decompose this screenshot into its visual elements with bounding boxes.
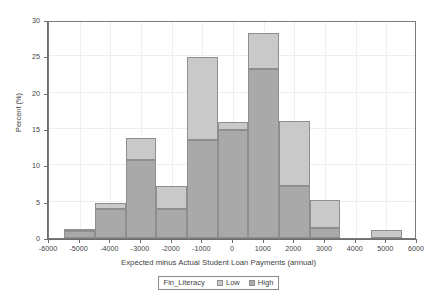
y-axis-tick-label: 5: [0, 198, 40, 207]
x-axis-tick: [355, 239, 356, 243]
y-axis-tick: [44, 239, 48, 240]
histogram-bar[interactable]: [64, 229, 95, 238]
bar-segment-high[interactable]: [126, 160, 157, 238]
bar-segment-low[interactable]: [279, 121, 310, 186]
x-axis-tick-label: 6000: [386, 244, 437, 253]
y-axis-tick: [44, 130, 48, 131]
histogram-bar[interactable]: [218, 122, 249, 238]
legend-swatch-high-icon: [249, 280, 255, 286]
x-axis-tick: [385, 239, 386, 243]
bar-segment-low[interactable]: [95, 203, 126, 209]
x-axis-tick: [109, 239, 110, 243]
bar-segment-low[interactable]: [310, 200, 341, 228]
y-axis-tick: [44, 94, 48, 95]
bar-segment-high[interactable]: [187, 140, 218, 238]
bar-segment-low[interactable]: [156, 186, 187, 209]
histogram-bar[interactable]: [310, 200, 341, 238]
histogram-bar[interactable]: [371, 230, 402, 238]
x-axis-tick: [263, 239, 264, 243]
histogram-bar[interactable]: [95, 203, 126, 238]
legend-swatch-low-icon: [217, 280, 223, 286]
y-axis-tick-label: 25: [0, 52, 40, 61]
bar-segment-low[interactable]: [218, 122, 249, 131]
y-axis-tick-label: 10: [0, 161, 40, 170]
gridline-vertical: [386, 22, 387, 238]
plot-inner: [49, 22, 415, 238]
y-axis-tick: [44, 166, 48, 167]
bar-segment-high[interactable]: [95, 209, 126, 238]
legend-title: Fin_Literacy: [164, 278, 205, 287]
gridline-vertical: [356, 22, 357, 238]
bar-segment-high[interactable]: [64, 231, 95, 238]
histogram-chart: -6000-5000-4000-3000-2000-10000100020003…: [0, 0, 437, 301]
bar-segment-low[interactable]: [126, 138, 157, 159]
bar-segment-low[interactable]: [64, 229, 95, 232]
bar-segment-high[interactable]: [218, 130, 249, 238]
y-axis-tick-label: 0: [0, 234, 40, 243]
histogram-bar[interactable]: [156, 186, 187, 238]
x-axis-tick: [324, 239, 325, 243]
x-axis-label: Expected minus Actual Student Loan Payme…: [0, 258, 437, 267]
plot-area: [48, 21, 416, 239]
gridline-horizontal: [49, 92, 415, 93]
y-axis-tick-label: 30: [0, 16, 40, 25]
legend-entry-low[interactable]: Low: [217, 278, 240, 287]
x-axis-tick: [171, 239, 172, 243]
gridline-vertical: [80, 22, 81, 238]
histogram-bar[interactable]: [279, 121, 310, 238]
gridline-horizontal: [49, 55, 415, 56]
bar-segment-low[interactable]: [187, 57, 218, 140]
y-axis-tick: [44, 57, 48, 58]
x-axis-tick: [293, 239, 294, 243]
bar-segment-low[interactable]: [248, 33, 279, 69]
bar-segment-high[interactable]: [310, 228, 341, 238]
legend-entry-high[interactable]: High: [249, 278, 274, 287]
legend-label-low: Low: [226, 278, 240, 287]
x-axis-tick: [232, 239, 233, 243]
y-axis-label: Percent (%): [14, 68, 23, 158]
y-axis-tick: [44, 21, 48, 22]
x-axis-tick: [79, 239, 80, 243]
histogram-bar[interactable]: [126, 138, 157, 238]
legend-label-high: High: [258, 278, 274, 287]
x-axis-tick: [416, 239, 417, 243]
histogram-bar[interactable]: [248, 33, 279, 238]
legend: Fin_Literacy Low High: [158, 276, 280, 290]
x-axis-tick: [48, 239, 49, 243]
histogram-bar[interactable]: [187, 57, 218, 238]
bar-segment-high[interactable]: [248, 69, 279, 238]
x-axis-tick: [201, 239, 202, 243]
x-axis-tick: [140, 239, 141, 243]
y-axis-tick: [44, 203, 48, 204]
bar-segment-low[interactable]: [371, 230, 402, 238]
bar-segment-high[interactable]: [156, 209, 187, 238]
bar-segment-high[interactable]: [279, 186, 310, 238]
